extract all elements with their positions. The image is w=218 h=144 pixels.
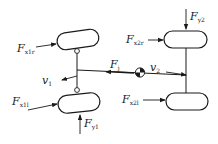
rear-left-wheel bbox=[166, 93, 208, 110]
label-fx1l: Fx1l bbox=[11, 95, 29, 108]
label-fy1: Fy1 bbox=[83, 117, 99, 131]
front-kingpin-top bbox=[75, 49, 80, 54]
center-of-mass-icon bbox=[135, 68, 144, 77]
front-kingpin-bottom bbox=[75, 88, 80, 93]
label-fx2l: Fx2l bbox=[121, 93, 139, 106]
label-fy2: Fy2 bbox=[189, 10, 205, 24]
fx1l-arrow bbox=[28, 104, 57, 110]
rear-right-wheel bbox=[164, 31, 207, 48]
fj-arrow bbox=[106, 72, 134, 73]
vehicle-force-diagram: Fx1r Fx1l Fy1 Fx2r Fy2 Fx2l Fj v1 v2 bbox=[0, 0, 218, 144]
front-left-wheel bbox=[57, 92, 101, 114]
front-right-wheel bbox=[56, 28, 100, 51]
v1-arrow bbox=[62, 76, 77, 80]
label-fx1r: Fx1r bbox=[16, 42, 35, 55]
label-v1: v1 bbox=[42, 74, 52, 87]
fx1r-arrow bbox=[36, 44, 56, 47]
label-v2: v2 bbox=[150, 61, 160, 74]
label-fj: Fj bbox=[109, 58, 120, 72]
label-fx2r: Fx2r bbox=[125, 33, 144, 46]
